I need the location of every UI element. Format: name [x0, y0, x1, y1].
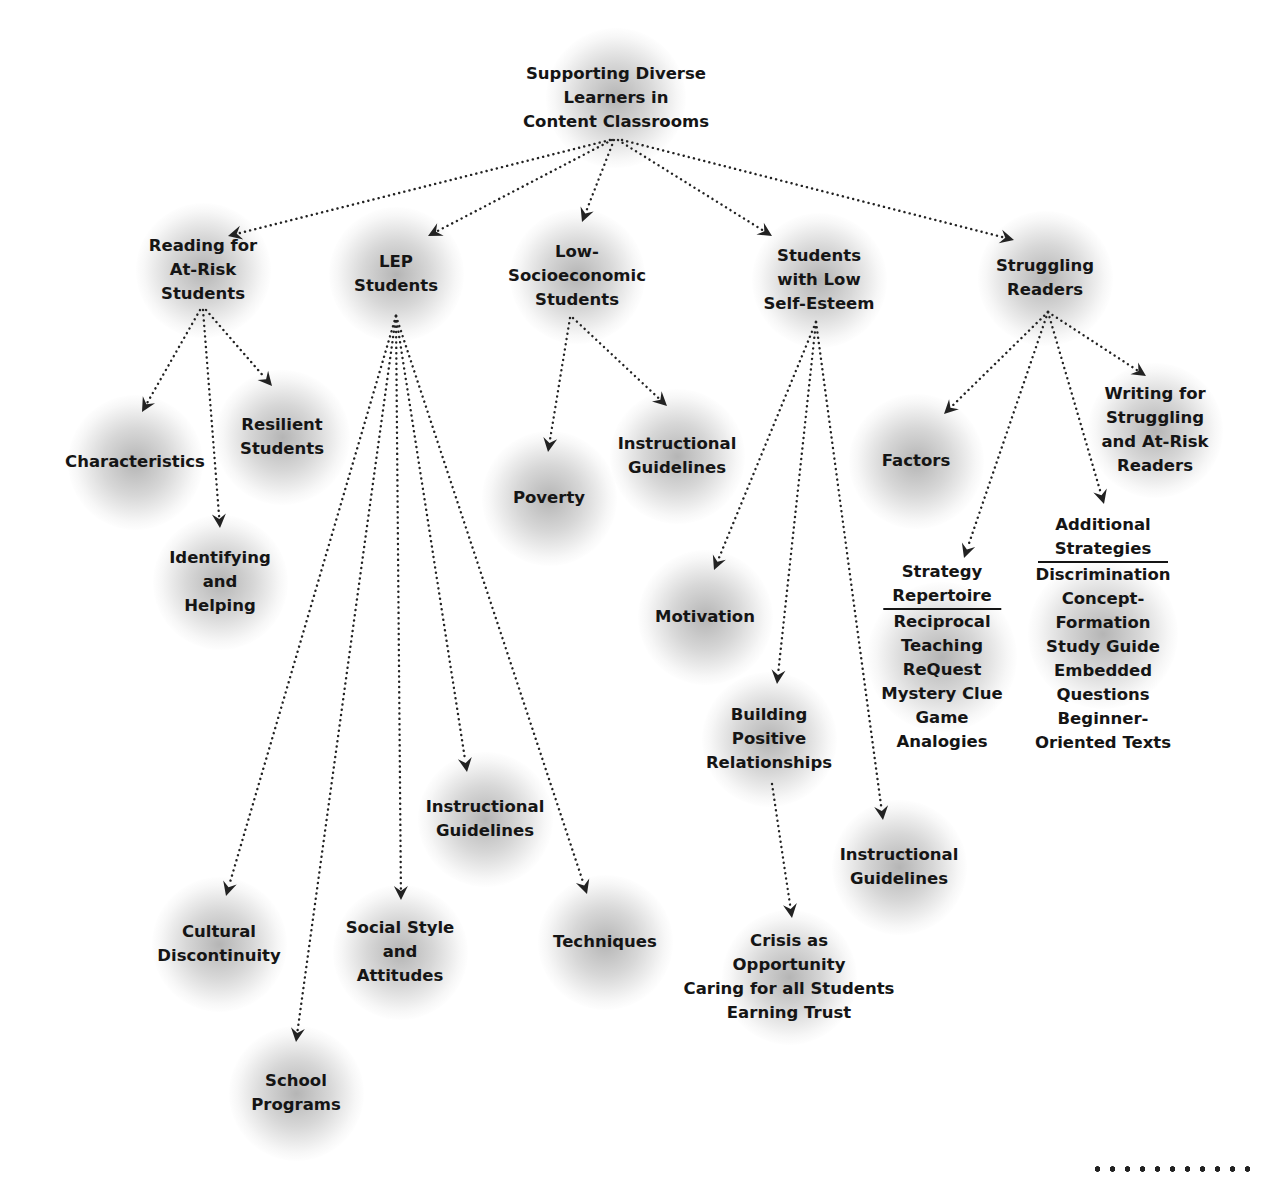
node-label-line: Instructional: [618, 432, 737, 456]
node-header-line: Repertoire: [881, 584, 1002, 608]
arrowhead-icon: [874, 805, 888, 820]
node-resilient-students: ResilientStudents: [240, 413, 324, 461]
node-low-socioeconomic: Low-SocioeconomicStudents: [508, 240, 646, 312]
node-label-line: Socioeconomic: [508, 264, 646, 288]
node-label-line: Readers: [1101, 454, 1208, 478]
node-label-line: Low-: [508, 240, 646, 264]
node-label-line: LEP: [354, 250, 438, 274]
node-label-line: Instructional: [426, 795, 545, 819]
concept-map: Supporting Diverse Learners in Content C…: [0, 0, 1263, 1181]
node-label-line: Formation: [1035, 611, 1171, 635]
node-lep-school-programs: SchoolPrograms: [251, 1069, 341, 1117]
root-title-line: Supporting Diverse: [523, 62, 709, 86]
node-label-line: Reading for: [149, 234, 257, 258]
node-label-line: Positive: [706, 727, 832, 751]
node-label-line: Struggling: [996, 254, 1094, 278]
node-label-line: Students: [508, 288, 646, 312]
node-label-line: Programs: [251, 1093, 341, 1117]
root-title-line: Content Classrooms: [523, 110, 709, 134]
arrowhead-icon: [258, 371, 272, 386]
arrowhead-icon: [962, 542, 975, 558]
node-label-line: ReQuest: [881, 658, 1002, 682]
node-label-line: and At-Risk: [1101, 430, 1208, 454]
node-selfesteem-instructional-guidelines: InstructionalGuidelines: [840, 843, 959, 891]
node-label-line: Teaching: [881, 634, 1002, 658]
edge-dotted-line: [952, 312, 1048, 406]
node-strategy-repertoire: StrategyRepertoireReciprocalTeachingReQu…: [881, 560, 1002, 754]
node-label-line: Factors: [882, 449, 950, 473]
root-title-line: Learners in: [523, 86, 709, 110]
node-label-line: Poverty: [513, 486, 585, 510]
node-label-line: Relationships: [706, 751, 832, 775]
node-label-line: with Low: [763, 268, 874, 292]
edge-dotted-line: [622, 140, 1003, 237]
node-poverty: Poverty: [513, 486, 585, 510]
node-label-line: School: [251, 1069, 341, 1093]
arrowhead-icon: [223, 881, 236, 896]
node-low-self-esteem: Studentswith LowSelf-Esteem: [763, 244, 874, 316]
node-label-line: Students: [763, 244, 874, 268]
edge-dotted-line: [396, 316, 401, 889]
node-label-line: Mystery Clue: [881, 682, 1002, 706]
node-label-line: Guidelines: [426, 819, 545, 843]
arrowhead-icon: [458, 757, 472, 772]
edge-dotted-line: [1048, 312, 1137, 370]
node-label-line: Crisis as: [684, 929, 895, 953]
node-struggling-readers: StrugglingReaders: [996, 254, 1094, 302]
node-label-line: and: [346, 940, 455, 964]
arrowhead-icon: [1130, 362, 1146, 376]
node-label-line: and: [169, 570, 271, 594]
edge-dotted-line: [550, 318, 570, 441]
node-header-line: Strategy: [881, 560, 1002, 584]
node-crisis-opportunity: Crisis asOpportunityCaring for all Stude…: [684, 929, 895, 1025]
edge-dotted-line: [203, 310, 219, 517]
node-label-line: Guidelines: [840, 867, 959, 891]
node-label-line: Earning Trust: [684, 1001, 895, 1025]
node-label-line: Discrimination: [1035, 563, 1171, 587]
node-label-line: Readers: [996, 278, 1094, 302]
node-label-line: Discontinuity: [157, 944, 280, 968]
node-identifying-helping: IdentifyingandHelping: [169, 546, 271, 618]
edge-dotted-line: [778, 322, 816, 673]
node-label-line: Motivation: [655, 605, 755, 629]
node-label-line: Students: [149, 282, 257, 306]
edge-dotted-line: [573, 318, 659, 398]
node-label-line: Beginner-: [1035, 707, 1171, 731]
node-label-line: Techniques: [553, 930, 657, 954]
node-label-line: Building: [706, 703, 832, 727]
node-lep-techniques: Techniques: [553, 930, 657, 954]
node-label-line: Caring for all Students: [684, 977, 895, 1001]
arrowhead-icon: [142, 396, 155, 412]
node-writing-struggling: Writing forStrugglingand At-RiskReaders: [1101, 382, 1208, 478]
node-label-line: Cultural: [157, 920, 280, 944]
node-label-line: Concept-: [1035, 587, 1171, 611]
node-reading-at-risk: Reading forAt-RiskStudents: [149, 234, 257, 306]
node-header-line: Additional: [1035, 513, 1171, 537]
node-factors: Factors: [882, 449, 950, 473]
node-building-positive-relationships: BuildingPositiveRelationships: [706, 703, 832, 775]
node-label-line: Guidelines: [618, 456, 737, 480]
node-lowses-instructional-guidelines: InstructionalGuidelines: [618, 432, 737, 480]
node-label-line: Helping: [169, 594, 271, 618]
node-label-line: Opportunity: [684, 953, 895, 977]
node-label-line: Resilient: [240, 413, 324, 437]
node-label-line: Writing for: [1101, 382, 1208, 406]
edge-dotted-line: [618, 140, 763, 230]
edge-dotted-line: [396, 316, 465, 761]
node-label-line: Embedded: [1035, 659, 1171, 683]
edge-dotted-line: [772, 784, 790, 907]
arrowhead-icon: [428, 223, 444, 236]
node-label-line: Characteristics: [65, 450, 205, 474]
root-node: Supporting Diverse Learners in Content C…: [523, 62, 709, 134]
node-label-line: Struggling: [1101, 406, 1208, 430]
edge-dotted-line: [586, 140, 614, 212]
node-label-line: Study Guide: [1035, 635, 1171, 659]
node-label-line: Reciprocal: [881, 610, 1002, 634]
edge-dotted-line: [1048, 312, 1101, 493]
node-label-line: Social Style: [346, 916, 455, 940]
arrowhead-icon: [772, 669, 786, 684]
node-lep-social-style: Social StyleandAttitudes: [346, 916, 455, 988]
node-label-line: Game: [881, 706, 1002, 730]
node-lep-students: LEPStudents: [354, 250, 438, 298]
edge-dotted-line: [239, 140, 610, 233]
